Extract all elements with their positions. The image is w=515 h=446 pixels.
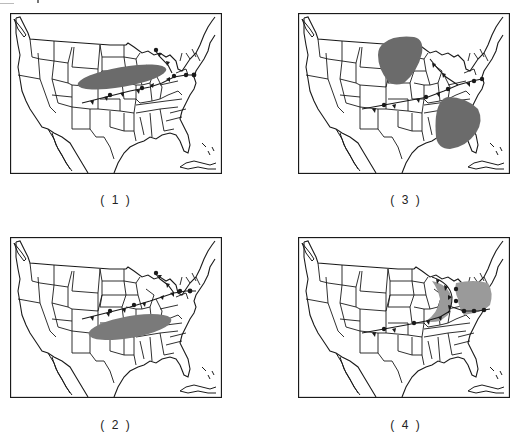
panel-caption-4: ( 4 ) xyxy=(376,418,436,432)
us-base-map xyxy=(11,238,222,398)
us-base-map xyxy=(11,14,222,174)
map-panel-4 xyxy=(298,237,510,398)
page-fragment xyxy=(0,0,14,4)
us-base-map xyxy=(299,238,510,398)
panel-caption-3: ( 3 ) xyxy=(376,193,436,207)
page-fragment-mark xyxy=(37,0,39,3)
panel-caption-2: ( 2 ) xyxy=(86,418,146,432)
map-panel-3 xyxy=(298,13,510,174)
panel-caption-1: ( 1 ) xyxy=(86,193,146,207)
map-panel-2 xyxy=(10,237,222,398)
map-panel-1 xyxy=(10,13,222,174)
